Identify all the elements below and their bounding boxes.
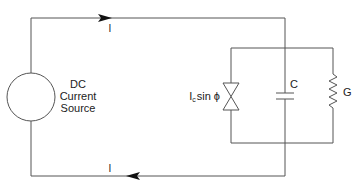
resistor-zigzag bbox=[329, 74, 337, 108]
capacitor-branch bbox=[276, 48, 294, 143]
svg-text:Source: Source bbox=[61, 102, 96, 114]
capacitor-label: C bbox=[290, 78, 298, 90]
current-label-top: I bbox=[109, 23, 112, 34]
junction-label: Icsin ϕ bbox=[189, 90, 220, 103]
junction-lower-triangle bbox=[223, 97, 239, 111]
current-source-symbol bbox=[7, 73, 55, 121]
junction-branch bbox=[223, 48, 239, 143]
current-source-label: DC Current Source bbox=[60, 78, 97, 114]
junction-upper-triangle bbox=[223, 83, 239, 97]
current-label-bottom: I bbox=[109, 163, 112, 174]
conductance-label: G bbox=[343, 86, 352, 98]
conductance-branch bbox=[329, 48, 337, 143]
circuit-diagram: DC Current Source I I Icsin ϕ C G bbox=[0, 0, 361, 191]
parallel-bus bbox=[231, 48, 333, 143]
svg-text:DC: DC bbox=[70, 78, 86, 90]
svg-text:Current: Current bbox=[60, 90, 97, 102]
